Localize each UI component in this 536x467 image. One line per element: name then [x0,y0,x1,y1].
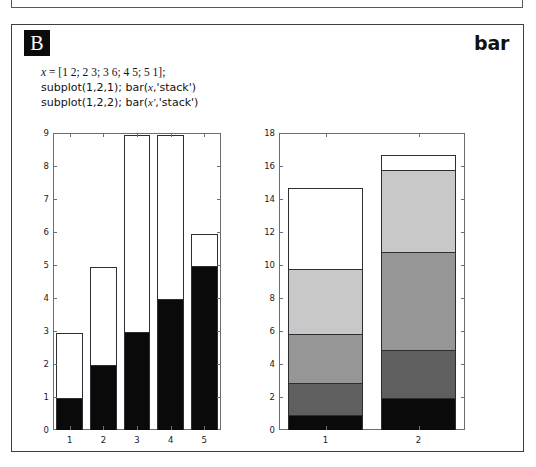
y-tick-label: 6 [257,326,275,336]
x-tick-mark-top [103,133,104,137]
y-tick-mark-right [217,298,221,299]
y-tick-label: 16 [257,161,275,171]
x-tick-mark [204,426,205,430]
y-tick-label: 6 [31,227,49,237]
x-tick-label: 2 [101,435,106,445]
y-tick-mark-right [461,298,465,299]
bar-segment [288,188,362,271]
y-tick-mark-right [461,133,465,134]
x-tick-label: 5 [201,435,206,445]
section-badge-label: B [30,33,43,53]
code-line-2-b: ,'stack') [153,81,196,94]
x-tick-label: 2 [416,435,421,445]
bar-segment [90,365,117,430]
code-line-2: subplot(1,2,1); bar(x,'stack') [41,80,198,96]
code-line-1-rest: = [1 2; 2 3; 3 6; 4 5; 5 1]; [46,66,165,78]
x-tick-mark-top [204,133,205,137]
bar-segment [124,135,151,333]
bar-4 [157,135,184,430]
y-tick-mark [53,166,57,167]
y-tick-label: 2 [257,392,275,402]
y-tick-mark [279,232,283,233]
y-tick-mark-right [217,166,221,167]
section-badge: B [24,30,50,56]
bar-segment [124,332,151,430]
y-tick-mark [279,364,283,365]
y-tick-mark [53,265,57,266]
x-tick-mark-top [171,133,172,137]
x-tick-label: 1 [67,435,72,445]
bar-segment [288,383,362,416]
x-tick-mark [171,426,172,430]
code-line-1: x = [1 2; 2 3; 3 6; 4 5; 5 1]; [41,65,198,80]
x-tick-mark [419,426,420,430]
x-tick-mark-top [419,133,420,137]
y-tick-mark-right [461,232,465,233]
y-tick-label: 3 [31,326,49,336]
bar-3 [124,135,151,430]
function-reference-card: B bar x = [1 2; 2 3; 3 6; 4 5; 5 1]; sub… [11,24,524,452]
y-tick-label: 0 [257,425,275,435]
y-tick-mark-right [461,265,465,266]
previous-section-box: but this should show how it is displayin… [11,0,523,8]
bar-segment [381,170,455,253]
y-tick-mark-right [217,364,221,365]
subplot-left: 012345678912345 [53,133,221,430]
y-tick-mark [53,133,57,134]
y-tick-label: 1 [31,392,49,402]
y-tick-label: 10 [257,260,275,270]
y-tick-mark [279,265,283,266]
y-tick-mark-right [217,232,221,233]
y-tick-label: 8 [31,161,49,171]
y-tick-mark-right [461,397,465,398]
figure-plots: 012345678912345 02468101214161812 [12,121,525,453]
y-tick-mark [53,298,57,299]
plot-area [53,133,221,430]
x-tick-mark [70,426,71,430]
y-tick-label: 14 [257,194,275,204]
y-tick-label: 9 [31,128,49,138]
bar-segment [157,135,184,300]
bar-segment [381,252,455,351]
y-tick-mark-right [217,265,221,266]
y-tick-mark-right [461,199,465,200]
y-tick-mark [279,199,283,200]
bar-segment [288,334,362,384]
y-tick-label: 0 [31,425,49,435]
code-line-2-a: subplot(1,2,1); bar( [41,81,148,94]
bar-segment [90,267,117,366]
code-block: x = [1 2; 2 3; 3 6; 4 5; 5 1]; subplot(1… [41,65,198,111]
x-tick-mark [326,426,327,430]
x-tick-label: 3 [134,435,139,445]
y-tick-mark [279,133,283,134]
code-line-3: subplot(1,2,2); bar(x','stack') [41,95,198,111]
y-tick-label: 2 [31,359,49,369]
x-tick-mark-top [326,133,327,137]
x-tick-mark-top [70,133,71,137]
y-tick-mark-right [461,331,465,332]
code-line-3-a: subplot(1,2,2); bar( [41,96,148,109]
bar-segment [56,333,83,399]
bar-segment [381,350,455,400]
bar-2 [90,267,117,430]
y-tick-label: 8 [257,293,275,303]
x-tick-mark-top [137,133,138,137]
y-tick-mark [53,232,57,233]
y-tick-mark-right [217,331,221,332]
plot-area [279,133,465,430]
y-tick-mark-right [217,397,221,398]
y-tick-mark [53,331,57,332]
y-tick-mark [53,397,57,398]
y-tick-mark-right [461,166,465,167]
y-tick-label: 5 [31,260,49,270]
code-line-3-b: ,'stack') [155,96,198,109]
y-tick-mark-right [217,199,221,200]
y-tick-mark [53,199,57,200]
y-tick-mark [279,331,283,332]
bar-segment [288,269,362,335]
bar-segment [157,299,184,430]
bar-2 [381,155,455,431]
y-tick-label: 4 [31,293,49,303]
bar-1 [56,333,83,430]
y-tick-mark [279,298,283,299]
